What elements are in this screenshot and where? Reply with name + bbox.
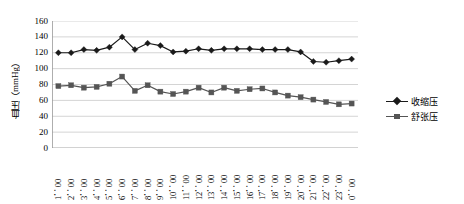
data-point-marker bbox=[183, 89, 188, 94]
x-axis-tick-labels: 1：002：003：004：005：006：007：008：009：0010：0… bbox=[52, 150, 358, 204]
data-point-marker bbox=[107, 81, 112, 86]
legend-item-舒张压[interactable]: 舒张压 bbox=[386, 109, 460, 124]
data-point-marker bbox=[81, 85, 86, 90]
data-point-marker bbox=[94, 84, 99, 89]
x-axis-tick-21：00: 21：00 bbox=[308, 150, 318, 200]
square-marker-icon bbox=[386, 111, 408, 122]
x-axis-tick-6：00: 6：00 bbox=[117, 150, 127, 200]
data-point-marker bbox=[349, 101, 354, 106]
data-point-marker bbox=[285, 93, 290, 98]
data-point-marker bbox=[209, 90, 214, 95]
y-axis-tick-labels: 160140120100806040200 bbox=[22, 0, 48, 204]
legend-label: 收缩压 bbox=[411, 95, 438, 108]
data-point-marker bbox=[171, 92, 176, 97]
data-point-marker bbox=[158, 89, 163, 94]
data-point-marker bbox=[145, 83, 150, 88]
data-point-marker bbox=[324, 99, 329, 104]
x-axis-tick-3：00: 3：00 bbox=[79, 150, 89, 200]
data-point-marker bbox=[222, 85, 227, 90]
legend-item-收缩压[interactable]: 收缩压 bbox=[386, 94, 460, 109]
data-point-marker bbox=[120, 74, 125, 79]
data-point-marker bbox=[273, 90, 278, 95]
x-axis-tick-18：00: 18：00 bbox=[270, 150, 280, 200]
data-point-marker bbox=[336, 102, 341, 107]
x-axis-tick-14：00: 14：00 bbox=[219, 150, 229, 200]
y-axis-tick-120: 120 bbox=[24, 48, 48, 57]
x-axis-tick-15：00: 15：00 bbox=[232, 150, 242, 200]
y-axis-tick-0: 0 bbox=[24, 144, 48, 153]
x-axis-tick-16：00: 16：00 bbox=[245, 150, 255, 200]
x-axis-tick-2：00: 2：00 bbox=[66, 150, 76, 200]
data-point-marker bbox=[247, 87, 252, 92]
x-axis-tick-19：00: 19：00 bbox=[283, 150, 293, 200]
data-point-marker bbox=[196, 85, 201, 90]
y-axis-tick-60: 60 bbox=[24, 96, 48, 105]
x-axis-tick-9：00: 9：00 bbox=[155, 150, 165, 200]
y-axis-tick-80: 80 bbox=[24, 80, 48, 89]
blood-pressure-line-chart: 血压（mmHg） 160140120100806040200 1：002：003… bbox=[0, 0, 464, 204]
data-point-marker bbox=[234, 88, 239, 93]
x-axis-tick-4：00: 4：00 bbox=[92, 150, 102, 200]
x-axis-tick-10：00: 10：00 bbox=[168, 150, 178, 200]
data-point-marker bbox=[311, 97, 316, 102]
x-axis-tick-22：00: 22：00 bbox=[321, 150, 331, 200]
x-axis-tick-23：00: 23：00 bbox=[334, 150, 344, 200]
chart-legend: 收缩压舒张压 bbox=[386, 94, 460, 124]
x-axis-tick-0：00: 0：00 bbox=[347, 150, 357, 200]
data-point-marker bbox=[132, 88, 137, 93]
x-axis-tick-13：00: 13：00 bbox=[206, 150, 216, 200]
x-axis-tick-5：00: 5：00 bbox=[104, 150, 114, 200]
y-axis-tick-20: 20 bbox=[24, 128, 48, 137]
y-axis-tick-100: 100 bbox=[24, 64, 48, 73]
x-axis-tick-12：00: 12：00 bbox=[194, 150, 204, 200]
y-axis-tick-160: 160 bbox=[24, 17, 48, 26]
data-point-marker bbox=[298, 95, 303, 100]
x-axis-tick-20：00: 20：00 bbox=[296, 150, 306, 200]
x-axis-tick-1：00: 1：00 bbox=[53, 150, 63, 200]
diamond-marker-icon bbox=[386, 96, 408, 107]
y-axis-tick-140: 140 bbox=[24, 32, 48, 41]
data-point-marker bbox=[56, 84, 61, 89]
data-point-marker bbox=[69, 83, 74, 88]
y-axis-tick-40: 40 bbox=[24, 112, 48, 121]
plot-area bbox=[52, 21, 358, 148]
x-axis-tick-17：00: 17：00 bbox=[257, 150, 267, 200]
x-axis-tick-11：00: 11：00 bbox=[181, 150, 191, 200]
data-point-marker bbox=[260, 86, 265, 91]
legend-label: 舒张压 bbox=[411, 110, 438, 123]
x-axis-tick-7：00: 7：00 bbox=[130, 150, 140, 200]
x-axis-tick-8：00: 8：00 bbox=[143, 150, 153, 200]
